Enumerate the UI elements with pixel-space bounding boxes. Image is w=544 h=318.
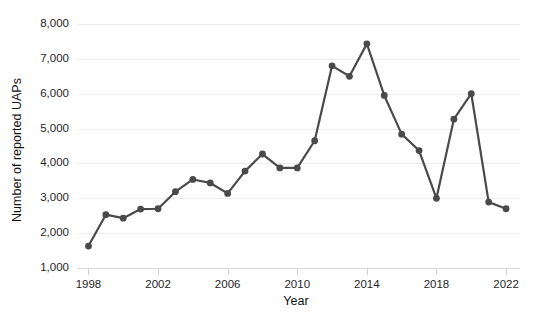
x-tick-label: 2010 bbox=[284, 278, 310, 290]
data-point bbox=[259, 151, 266, 158]
gridlines-group bbox=[78, 25, 520, 269]
data-point bbox=[137, 206, 144, 213]
chart-container: 8,0007,0006,0005,0004,0003,0002,0001,000… bbox=[0, 0, 544, 318]
data-point bbox=[294, 165, 301, 172]
x-axis-tick-marks bbox=[89, 269, 507, 275]
data-point bbox=[363, 40, 370, 47]
y-tick-label: 4,000 bbox=[40, 156, 69, 168]
data-point bbox=[85, 243, 92, 250]
series-line-reported-uaps bbox=[88, 44, 506, 246]
data-point bbox=[155, 205, 162, 212]
data-point bbox=[346, 73, 353, 80]
y-tick-label: 8,000 bbox=[40, 17, 69, 29]
series-points-group bbox=[85, 40, 509, 249]
y-tick-label: 6,000 bbox=[40, 87, 69, 99]
x-tick-label: 2006 bbox=[215, 278, 241, 290]
data-point bbox=[503, 205, 510, 212]
uap-line-chart: 8,0007,0006,0005,0004,0003,0002,0001,000… bbox=[0, 0, 544, 318]
x-tick-label: 2014 bbox=[354, 278, 380, 290]
data-point bbox=[276, 165, 283, 172]
data-point bbox=[311, 137, 318, 144]
y-tick-label: 2,000 bbox=[40, 226, 69, 238]
y-tick-label: 5,000 bbox=[40, 122, 69, 134]
data-point bbox=[433, 195, 440, 202]
x-tick-label: 2002 bbox=[145, 278, 171, 290]
data-point bbox=[242, 168, 249, 175]
data-point bbox=[207, 180, 214, 187]
y-axis-tick-labels: 8,0007,0006,0005,0004,0003,0002,0001,000 bbox=[40, 17, 69, 273]
y-axis-title: Number of reported UAPs bbox=[10, 78, 24, 222]
data-point bbox=[120, 215, 127, 222]
data-point bbox=[329, 62, 336, 69]
data-point bbox=[398, 131, 405, 138]
data-point bbox=[172, 188, 179, 195]
data-point bbox=[416, 147, 423, 154]
data-point bbox=[468, 90, 475, 97]
data-point bbox=[102, 211, 109, 218]
x-tick-label: 2022 bbox=[493, 278, 519, 290]
x-tick-label: 1998 bbox=[76, 278, 102, 290]
y-tick-label: 7,000 bbox=[40, 52, 69, 64]
x-axis-tick-labels: 1998200220062010201420182022 bbox=[76, 278, 519, 290]
y-tick-label: 3,000 bbox=[40, 191, 69, 203]
data-point bbox=[450, 116, 457, 123]
y-tick-label: 1,000 bbox=[40, 261, 69, 273]
x-axis-title: Year bbox=[283, 294, 308, 308]
data-point bbox=[224, 190, 231, 197]
data-point bbox=[189, 176, 196, 183]
data-point bbox=[381, 92, 388, 99]
x-tick-label: 2018 bbox=[424, 278, 450, 290]
data-point bbox=[485, 199, 492, 206]
